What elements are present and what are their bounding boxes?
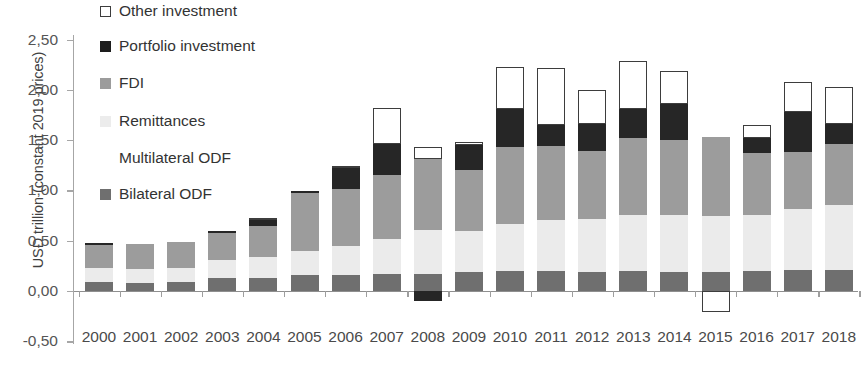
- x-tick: [777, 291, 778, 297]
- segment-portfolio: [414, 291, 442, 301]
- segment-other: [825, 87, 853, 124]
- segment-fdi: [784, 152, 812, 208]
- x-tick: [202, 291, 203, 297]
- segment-other: [537, 68, 565, 125]
- y-tick: 1,00: [67, 190, 74, 191]
- bar-2006[interactable]: [332, 30, 360, 344]
- legend-item-portfolio-investment[interactable]: Portfolio investment: [100, 37, 255, 55]
- segment-remittances: [455, 231, 483, 272]
- segment-fdi: [208, 233, 236, 260]
- x-label-2018: 2018: [816, 328, 862, 346]
- segment-fdi: [126, 244, 154, 269]
- segment-fdi: [332, 189, 360, 245]
- bar-2005[interactable]: [291, 30, 319, 344]
- y-tick-label: 1,50: [28, 131, 58, 149]
- segment-remittances: [743, 215, 771, 271]
- segment-bilateral: [414, 274, 442, 291]
- legend-swatch-icon: [100, 78, 111, 89]
- segment-fdi: [167, 242, 195, 268]
- y-tick: -0,50: [67, 341, 74, 342]
- legend-item-remittances[interactable]: Remittances: [100, 112, 205, 130]
- x-label-2000: 2000: [76, 328, 122, 346]
- segment-fdi: [373, 175, 401, 238]
- bar-2008[interactable]: [414, 30, 442, 344]
- segment-remittances: [537, 220, 565, 271]
- segment-remittances: [167, 268, 195, 282]
- x-label-2012: 2012: [569, 328, 615, 346]
- legend-swatch-icon: [100, 189, 111, 200]
- legend-swatch-icon: [100, 41, 111, 52]
- segment-portfolio: [496, 109, 524, 147]
- bar-2003[interactable]: [208, 30, 236, 344]
- x-label-2017: 2017: [775, 328, 821, 346]
- bar-2014[interactable]: [660, 30, 688, 344]
- segment-fdi: [619, 138, 647, 214]
- bar-2009[interactable]: [455, 30, 483, 344]
- x-tick: [490, 291, 491, 297]
- x-label-2004: 2004: [240, 328, 286, 346]
- x-label-2003: 2003: [199, 328, 245, 346]
- x-tick: [531, 291, 532, 297]
- bar-2004[interactable]: [249, 30, 277, 344]
- segment-other: [332, 166, 360, 168]
- segment-other: [743, 125, 771, 138]
- x-tick: [407, 291, 408, 297]
- legend-item-multilateral-odf[interactable]: Multilateral ODF: [100, 149, 231, 167]
- legend-swatch-icon: [100, 6, 111, 17]
- bar-2013[interactable]: [619, 30, 647, 344]
- bar-2010[interactable]: [496, 30, 524, 344]
- x-tick: [818, 291, 819, 297]
- segment-bilateral: [373, 274, 401, 291]
- legend-label: Other investment: [119, 2, 237, 20]
- x-label-2001: 2001: [117, 328, 163, 346]
- segment-remittances: [619, 215, 647, 271]
- y-tick-label: 2,00: [28, 80, 58, 98]
- legend-item-other-investment[interactable]: Other investment: [100, 2, 237, 20]
- segment-bilateral: [537, 271, 565, 291]
- segment-remittances: [85, 268, 113, 282]
- segment-other: [660, 71, 688, 104]
- segment-portfolio: [825, 124, 853, 144]
- segment-bilateral: [660, 272, 688, 291]
- segment-bilateral: [126, 283, 154, 291]
- segment-remittances: [825, 205, 853, 269]
- legend-item-bilateral-odf[interactable]: Bilateral ODF: [100, 185, 212, 203]
- segment-fdi: [825, 144, 853, 205]
- bar-2017[interactable]: [784, 30, 812, 344]
- x-label-2010: 2010: [487, 328, 533, 346]
- stacked-bar-chart: USD trillion (constant 2019 prices) 2,50…: [0, 0, 862, 379]
- x-tick: [572, 291, 573, 297]
- segment-remittances: [291, 251, 319, 275]
- bar-2012[interactable]: [578, 30, 606, 344]
- segment-portfolio: [291, 191, 319, 193]
- segment-other: [702, 291, 730, 312]
- y-tick: 0,00: [67, 291, 74, 292]
- legend-label: Bilateral ODF: [119, 185, 212, 203]
- x-tick: [366, 291, 367, 297]
- segment-bilateral: [167, 282, 195, 291]
- bar-2016[interactable]: [743, 30, 771, 344]
- bar-2018[interactable]: [825, 30, 853, 344]
- segment-portfolio: [249, 220, 277, 226]
- x-label-2002: 2002: [158, 328, 204, 346]
- x-label-2005: 2005: [282, 328, 328, 346]
- segment-fdi: [578, 151, 606, 218]
- segment-remittances: [249, 257, 277, 278]
- segment-remittances: [414, 230, 442, 274]
- segment-remittances: [332, 246, 360, 275]
- bar-2011[interactable]: [537, 30, 565, 344]
- x-tick: [120, 291, 121, 297]
- segment-bilateral: [332, 275, 360, 291]
- bar-2007[interactable]: [373, 30, 401, 344]
- segment-bilateral: [743, 271, 771, 291]
- bar-2015[interactable]: [702, 30, 730, 344]
- legend-item-fdi[interactable]: FDI: [100, 74, 144, 92]
- segment-fdi: [455, 170, 483, 230]
- segment-remittances: [702, 216, 730, 272]
- x-label-2008: 2008: [405, 328, 451, 346]
- segment-portfolio: [660, 104, 688, 140]
- segment-portfolio: [743, 138, 771, 153]
- x-tick: [695, 291, 696, 297]
- legend-label: Multilateral ODF: [119, 149, 231, 167]
- segment-bilateral: [455, 272, 483, 291]
